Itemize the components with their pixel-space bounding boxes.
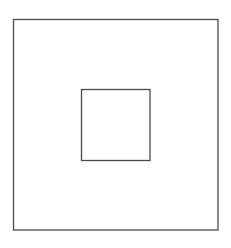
background (0, 0, 231, 248)
diagram-canvas (0, 0, 231, 248)
